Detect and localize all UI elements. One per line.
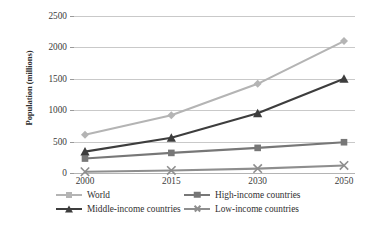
- legend-item[interactable]: Low-income countries: [184, 203, 356, 214]
- y-axis-tick-label: 500: [53, 137, 67, 147]
- series-world: [81, 37, 348, 139]
- population-projection-line-chart: Population (millions) 050010001500200025…: [0, 0, 371, 235]
- x-axis-tick-label: 2000: [76, 176, 95, 186]
- y-axis-tick-label: 2000: [48, 42, 67, 52]
- x-axis-tick-label: 2030: [248, 176, 267, 186]
- y-axis-tick-label: 1000: [48, 105, 67, 115]
- series-line: [85, 165, 344, 171]
- diamond-marker-icon: [340, 37, 348, 45]
- legend-item[interactable]: Middle-income countries: [56, 203, 184, 214]
- square-marker-icon: [341, 139, 348, 146]
- legend-label: Low-income countries: [215, 204, 299, 214]
- y-axis-title: Population (millions): [24, 8, 34, 168]
- triangle-marker-icon: [56, 203, 82, 214]
- gridline: [74, 173, 355, 174]
- legend-label: Middle-income countries: [87, 204, 181, 214]
- series-canvas: [74, 16, 355, 173]
- diamond-marker-icon: [167, 111, 175, 119]
- x-axis-tick-label: 2015: [162, 176, 181, 186]
- legend-item[interactable]: World: [56, 189, 184, 200]
- legend-item[interactable]: High-income countries: [184, 189, 356, 200]
- legend-label: World: [87, 190, 110, 200]
- square-marker-icon: [168, 150, 175, 157]
- chart-legend: WorldHigh-income countriesMiddle-income …: [56, 189, 356, 214]
- square-marker-icon: [254, 145, 261, 152]
- series-middle-income-countries: [80, 74, 348, 155]
- legend-label: High-income countries: [215, 190, 300, 200]
- y-axis-tick-label: 0: [62, 168, 67, 178]
- diamond-marker-icon: [254, 80, 262, 88]
- diamond-marker-icon: [56, 189, 82, 200]
- series-high-income-countries: [82, 139, 348, 162]
- y-axis-tick-label: 1500: [48, 74, 67, 84]
- triangle-marker-icon: [339, 74, 348, 83]
- y-axis-tick: [70, 173, 74, 174]
- square-marker-icon: [184, 189, 210, 200]
- x-axis-tick-label: 2050: [335, 176, 354, 186]
- series-line: [85, 41, 344, 135]
- diamond-marker-icon: [81, 131, 89, 139]
- plot-area: 05001000150020002500 2000201520302050: [74, 16, 355, 173]
- cross-marker-icon: [184, 203, 210, 214]
- series-line: [85, 79, 344, 152]
- y-axis-tick-label: 2500: [48, 11, 67, 21]
- square-marker-icon: [82, 155, 89, 162]
